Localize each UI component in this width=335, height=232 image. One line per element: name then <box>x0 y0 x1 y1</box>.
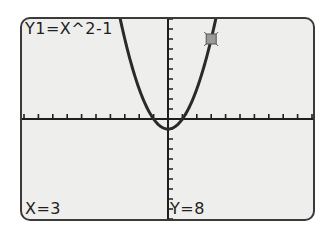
trace-y-value: Y=8 <box>170 201 205 217</box>
trace-x-value: X=3 <box>25 201 61 217</box>
trace-cursor-marker[interactable] <box>204 32 218 46</box>
calculator-graph-screen: Y1=X^2-1 X=3 Y=8 <box>20 17 315 221</box>
graph-plot <box>22 19 313 219</box>
equation-label: Y1=X^2-1 <box>25 21 114 37</box>
